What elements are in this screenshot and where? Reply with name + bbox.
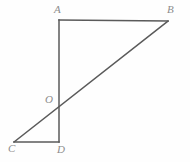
vertex-label-d: D bbox=[57, 144, 65, 155]
vertex-label-a: A bbox=[54, 4, 61, 15]
segment-ab bbox=[59, 20, 168, 21]
vertex-label-b: B bbox=[167, 4, 174, 15]
geometry-drawing bbox=[0, 0, 190, 162]
vertex-label-o: O bbox=[45, 94, 53, 105]
vertex-label-c: C bbox=[8, 143, 15, 154]
geometry-figure: A B C D O bbox=[0, 0, 190, 162]
segment-cb bbox=[14, 21, 168, 142]
